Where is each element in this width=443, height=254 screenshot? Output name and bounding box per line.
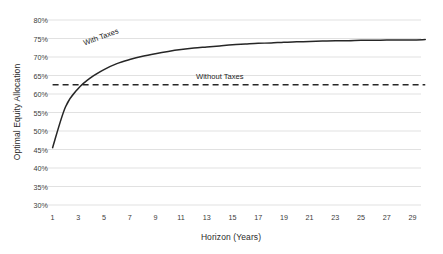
x-tick-label: 7 bbox=[118, 213, 142, 222]
x-tick-label: 13 bbox=[195, 213, 219, 222]
x-tick-label: 9 bbox=[143, 213, 167, 222]
chart-container: Optimal Equity Allocation 80% 75% 70% 65… bbox=[0, 0, 443, 254]
annotation-without-taxes: Without Taxes bbox=[196, 72, 244, 81]
x-tick-label: 1 bbox=[41, 213, 65, 222]
x-tick-label: 23 bbox=[323, 213, 347, 222]
x-tick-label: 19 bbox=[272, 213, 296, 222]
x-tick-label: 21 bbox=[298, 213, 322, 222]
x-tick-label: 5 bbox=[92, 213, 116, 222]
x-tick-label: 11 bbox=[169, 213, 193, 222]
x-tick-label: 25 bbox=[349, 213, 373, 222]
gridlines bbox=[48, 20, 421, 205]
x-axis-title: Horizon (Years) bbox=[40, 232, 422, 242]
x-tick-label: 29 bbox=[400, 213, 424, 222]
x-tick-label: 3 bbox=[66, 213, 90, 222]
x-tick-label: 15 bbox=[221, 213, 245, 222]
x-tick-label: 27 bbox=[375, 213, 399, 222]
x-tick-label: 17 bbox=[246, 213, 270, 222]
